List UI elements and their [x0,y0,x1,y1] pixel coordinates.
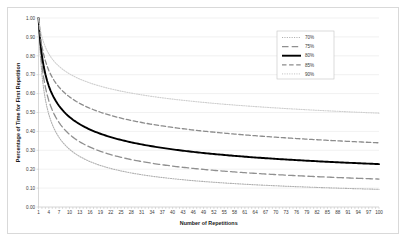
legend-label-90pct[interactable]: 90% [305,72,314,77]
x-tick-label: 22 [108,210,114,215]
y-tick-label: 0.60 [26,91,35,96]
y-tick-label: 0.30 [26,148,35,153]
x-tick-label: 91 [345,210,351,215]
x-tick-label: 10 [67,210,73,215]
y-axis-title: Percentage of Time for First Repetition [15,63,21,162]
x-tick-label: 34 [149,210,155,215]
x-tick-label: 46 [191,210,197,215]
y-tick-label: 0.00 [26,205,35,210]
x-tick-label: 31 [139,210,145,215]
learning-curve-chart: 0.000.100.200.300.400.500.600.700.800.90… [0,0,406,241]
x-tick-label: 25 [118,210,124,215]
x-axis-tick-labels: 1471013161922252831343740434649525558616… [37,210,383,215]
x-tick-label: 40 [170,210,176,215]
y-tick-label: 0.10 [26,186,35,191]
x-tick-label: 61 [242,210,248,215]
y-tick-label: 0.20 [26,167,35,172]
x-tick-label: 64 [253,210,259,215]
x-tick-label: 55 [222,210,228,215]
x-tick-label: 82 [315,210,321,215]
x-tick-label: 67 [263,210,269,215]
x-tick-label: 49 [201,210,207,215]
chart-figure: 0.000.100.200.300.400.500.600.700.800.90… [0,0,406,241]
x-tick-label: 100 [375,210,383,215]
x-tick-label: 88 [335,210,341,215]
x-tick-label: 1 [37,210,40,215]
x-tick-label: 79 [304,210,310,215]
chart-legend[interactable]: 70%75%80%85%90% [277,31,334,79]
y-tick-label: 0.70 [26,72,35,77]
x-tick-label: 85 [325,210,331,215]
x-tick-label: 19 [98,210,104,215]
x-tick-label: 73 [284,210,290,215]
x-tick-label: 13 [77,210,83,215]
x-tick-label: 4 [48,210,51,215]
x-tick-label: 76 [294,210,300,215]
x-tick-label: 37 [160,210,166,215]
x-tick-label: 97 [366,210,372,215]
y-tick-label: 0.40 [26,129,35,134]
legend-label-75pct[interactable]: 75% [305,44,314,49]
x-axis-title: Number of Repetitions [180,220,238,226]
x-tick-label: 16 [88,210,94,215]
legend-label-70pct[interactable]: 70% [305,35,314,40]
x-tick-label: 43 [180,210,186,215]
x-tick-label: 52 [211,210,217,215]
x-tick-label: 7 [58,210,61,215]
y-tick-label: 0.90 [26,35,35,40]
x-tick-label: 94 [356,210,362,215]
y-tick-label: 0.50 [26,110,35,115]
y-axis-tick-labels: 0.000.100.200.300.400.500.600.700.800.90… [26,16,38,210]
x-tick-label: 58 [232,210,238,215]
x-tick-label: 70 [273,210,279,215]
y-tick-label: 0.80 [26,54,35,59]
y-tick-label: 1.00 [26,16,35,21]
legend-label-80pct[interactable]: 80% [305,53,314,58]
x-tick-label: 28 [129,210,135,215]
legend-label-85pct[interactable]: 85% [305,63,314,68]
